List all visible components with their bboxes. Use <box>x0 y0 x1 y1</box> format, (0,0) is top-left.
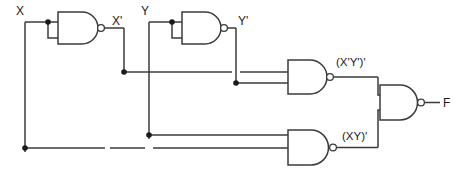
junction-xnot <box>121 69 127 75</box>
junction-x-bottom <box>22 145 28 151</box>
nand-x-y-bubble <box>330 144 337 151</box>
logic-circuit-diagram: X Y X' Y' (X'Y')' (XY)' F <box>0 0 458 187</box>
circuit-canvas: X Y X' Y' (X'Y')' (XY)' F <box>0 0 458 187</box>
nand-output-body[interactable] <box>380 85 418 120</box>
label-signal-y-not: Y' <box>238 14 248 28</box>
wire-x-tied-input-stub <box>48 22 58 38</box>
nand-inverter-y[interactable] <box>169 12 227 44</box>
label-input-x: X <box>16 4 24 18</box>
nand-inverter-x-body[interactable] <box>58 12 98 44</box>
label-signal-xy-nand: (XY)' <box>342 130 367 142</box>
label-input-y: Y <box>141 4 149 18</box>
nand-inverter-x[interactable] <box>45 12 104 44</box>
nand-output-bubble <box>418 99 425 106</box>
nand-inverter-y-body[interactable] <box>182 12 221 44</box>
junction-ynot <box>233 80 239 86</box>
nand-xnot-ynot-bubble <box>327 74 334 81</box>
label-signal-x-not: X' <box>112 14 122 28</box>
label-signal-xnot-ynot-nand: (X'Y')' <box>336 56 366 68</box>
label-output-f: F <box>443 96 450 110</box>
nand-x-y-body[interactable] <box>288 130 329 165</box>
y-not-net <box>228 28 289 86</box>
junction-y-tie <box>169 19 175 25</box>
wire-y-tied-input-stub <box>172 22 182 38</box>
nand-xnot-ynot[interactable] <box>288 60 380 95</box>
nand-inverter-x-bubble <box>98 25 105 32</box>
nand-inverter-y-bubble <box>221 25 228 32</box>
junction-y-bottom <box>146 132 152 138</box>
nand-xnot-ynot-body[interactable] <box>288 60 327 94</box>
junction-x-tie <box>45 19 51 25</box>
nand-output[interactable] <box>380 85 440 120</box>
